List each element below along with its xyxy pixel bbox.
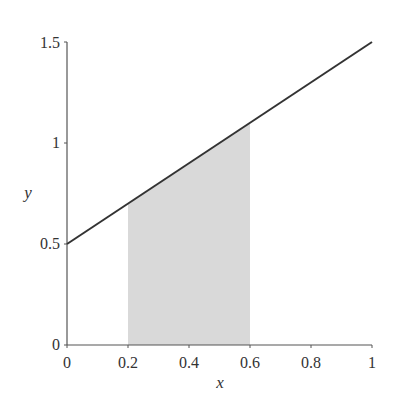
- x-tick-label: 0.4: [179, 354, 199, 371]
- x-axis-label: x: [215, 373, 224, 392]
- x-tick-label: 1: [368, 354, 376, 371]
- shaded-area: [128, 123, 250, 345]
- x-tick-label: 0: [63, 354, 71, 371]
- x-tick-label: 0.2: [118, 354, 138, 371]
- y-axis-label: y: [22, 183, 32, 202]
- y-tick-label: 1.5: [40, 34, 60, 51]
- chart: 0 0.5 1 1.5 0 0.2 0.4 0.6 0.8 1 x y: [0, 0, 395, 400]
- y-tick-label: 1: [52, 134, 60, 151]
- y-tick-label: 0: [52, 336, 60, 353]
- x-tick-label: 0.8: [301, 354, 321, 371]
- y-tick-label: 0.5: [40, 235, 60, 252]
- x-tick-label: 0.6: [240, 354, 260, 371]
